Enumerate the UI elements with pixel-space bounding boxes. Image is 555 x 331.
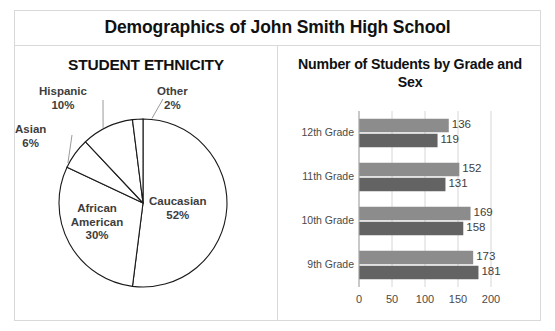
bar-female-11th-grade[interactable] xyxy=(359,163,459,177)
pie-label-caucasian: Caucasian 52% xyxy=(149,195,207,222)
header-title-row: Demographics of John Smith High School xyxy=(14,10,541,46)
bar-female-10th-grade[interactable] xyxy=(359,207,471,221)
bar-data-label-female-9th-grade: 173 xyxy=(476,250,495,262)
pie-chart-panel: STUDENT ETHNICITY Hispanic 10% Asian 6% … xyxy=(15,47,277,320)
pie-label-hispanic: Hispanic 10% xyxy=(39,85,87,112)
bar-category-label-10th-grade: 10th Grade xyxy=(286,214,354,226)
pie-label-caucasian-value: 52% xyxy=(166,209,189,221)
pie-label-asian-name: Asian xyxy=(15,123,46,135)
bar-x-tick-150: 150 xyxy=(443,293,473,305)
bar-data-label-female-11th-grade: 152 xyxy=(462,162,481,174)
bar-category-label-11th-grade: 11th Grade xyxy=(286,170,354,182)
page-title: Demographics of John Smith High School xyxy=(104,17,450,38)
bar-data-label-male-10th-grade: 158 xyxy=(466,221,485,233)
pie-label-african-american-value: 30% xyxy=(85,229,108,241)
bar-data-label-female-12th-grade: 136 xyxy=(452,118,471,130)
bar-chart-panel: Number of Students by Grade and Sex 12th… xyxy=(278,47,541,320)
pie-label-other: Other 2% xyxy=(157,85,188,112)
pie-label-hispanic-name: Hispanic xyxy=(39,85,87,97)
bar-data-label-male-11th-grade: 131 xyxy=(448,177,467,189)
pie-label-other-value: 2% xyxy=(164,99,181,111)
bar-female-12th-grade[interactable] xyxy=(359,119,449,133)
bar-x-tick-0: 0 xyxy=(344,293,374,305)
bar-category-label-9th-grade: 9th Grade xyxy=(286,258,354,270)
bar-female-9th-grade[interactable] xyxy=(359,251,473,265)
bar-male-11th-grade[interactable] xyxy=(359,178,445,192)
pie-label-caucasian-name: Caucasian xyxy=(149,195,207,207)
screenshot-root: Demographics of John Smith High School S… xyxy=(0,0,555,331)
bar-male-12th-grade[interactable] xyxy=(359,134,438,148)
bar-data-label-male-9th-grade: 181 xyxy=(481,265,500,277)
bar-chart-graphic xyxy=(278,47,541,320)
bar-category-label-12th-grade: 12th Grade xyxy=(286,126,354,138)
pie-label-asian: Asian 6% xyxy=(15,123,46,150)
pie-label-asian-value: 6% xyxy=(22,137,39,149)
bar-x-tick-50: 50 xyxy=(377,293,407,305)
bar-data-label-female-10th-grade: 169 xyxy=(474,206,493,218)
bar-data-label-male-12th-grade: 119 xyxy=(441,133,459,145)
bar-x-tick-100: 100 xyxy=(410,293,440,305)
bar-male-10th-grade[interactable] xyxy=(359,222,463,236)
bar-x-tick-200: 200 xyxy=(476,293,506,305)
pie-label-other-name: Other xyxy=(157,85,188,97)
pie-label-hispanic-value: 10% xyxy=(51,99,74,111)
bar-male-9th-grade[interactable] xyxy=(359,266,478,280)
pie-label-african-american: African American 30% xyxy=(58,202,136,243)
pie-label-african-american-name: African American xyxy=(71,202,123,228)
